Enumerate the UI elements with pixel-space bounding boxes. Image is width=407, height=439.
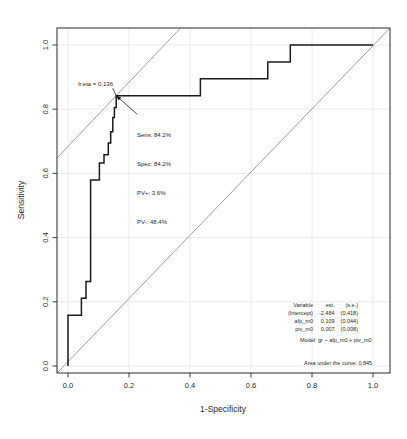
stat-specificity: Spec: 84.2% bbox=[137, 160, 171, 170]
coef-row: (Intercept)-2.484(0.418) bbox=[282, 310, 358, 318]
cutoff-stats-block: Sens: 84.2% Spec: 84.2% PV+: 3.6% PV-: 4… bbox=[137, 112, 171, 246]
x-tick-label: 1.0 bbox=[368, 381, 378, 390]
cutoff-threshold-label: lr.eta = 0.136 bbox=[78, 81, 113, 87]
stat-sensitivity: Sens: 84.2% bbox=[137, 131, 171, 141]
coef-cell: (0.008) bbox=[335, 326, 358, 334]
coef-cell: (0.044) bbox=[335, 318, 358, 326]
coef-header-cell: (s.e.) bbox=[335, 302, 358, 310]
coef-cell: (0.418) bbox=[335, 310, 358, 318]
model-formula-label: Model: gr ~ afp_m0 + piv_m0 bbox=[300, 337, 372, 343]
coef-header-cell: est. bbox=[313, 302, 335, 310]
x-tick-label: 0.8 bbox=[307, 381, 317, 390]
coef-cell: 0.109 bbox=[313, 318, 335, 326]
x-tick-label: 0.4 bbox=[185, 381, 195, 390]
y-tick-label: 1.0 bbox=[41, 40, 50, 50]
coef-cell: -2.484 bbox=[313, 310, 335, 318]
stat-ppv: PV+: 3.6% bbox=[137, 189, 171, 199]
coef-header-cell: Variable bbox=[282, 302, 313, 310]
x-tick-label: 0.2 bbox=[124, 381, 134, 390]
auc-label: Area under the curve: 0.845 bbox=[304, 360, 372, 366]
coef-cell: afp_m0 bbox=[282, 318, 313, 326]
y-tick-label: 0.2 bbox=[41, 297, 50, 307]
coef-row: afp_m00.109(0.044) bbox=[282, 318, 358, 326]
roc-plot-canvas: 0.00.20.40.60.81.00.00.20.40.60.81.0 bbox=[0, 0, 407, 439]
y-axis-title: Sensitivity bbox=[16, 181, 26, 219]
x-tick-label: 0.0 bbox=[63, 381, 73, 390]
cutoff-label-connector bbox=[113, 88, 117, 96]
coef-cell: 0.007 bbox=[313, 326, 335, 334]
coef-header-row: Variableest.(s.e.) bbox=[282, 302, 358, 310]
coef-cell: piv_m0 bbox=[282, 326, 313, 334]
roc-plot-figure: 0.00.20.40.60.81.00.00.20.40.60.81.0 lr.… bbox=[0, 0, 407, 439]
coef-row: piv_m00.007(0.008) bbox=[282, 326, 358, 334]
x-tick-label: 0.6 bbox=[246, 381, 256, 390]
y-tick-label: 0.6 bbox=[41, 168, 50, 178]
x-axis-title: 1-Specificity bbox=[200, 404, 246, 414]
stat-npv: PV-: 48.4% bbox=[137, 218, 171, 228]
y-tick-label: 0.0 bbox=[41, 361, 50, 371]
y-tick-label: 0.8 bbox=[41, 104, 50, 114]
coefficient-table: Variableest.(s.e.)(Intercept)-2.484(0.41… bbox=[282, 302, 358, 334]
y-tick-label: 0.4 bbox=[41, 232, 50, 242]
coef-cell: (Intercept) bbox=[282, 310, 313, 318]
